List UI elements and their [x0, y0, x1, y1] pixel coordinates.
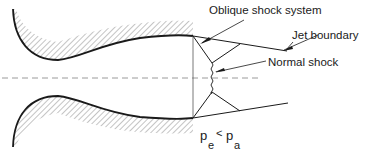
pressure-p-exit: p [200, 128, 207, 143]
normal-shock-label: Normal shock [268, 56, 339, 68]
pressure-p-ambient: p [226, 128, 233, 143]
jet-boundary-arrowhead [283, 46, 293, 51]
jet-boundary-label: Jet boundary [292, 29, 359, 41]
pressure-sub-e: e [208, 139, 214, 151]
normal-shock-arrowhead [215, 68, 225, 72]
nozzle-diagram: Oblique shock system Jet boundary Normal… [0, 0, 365, 152]
oblique-shock-label: Oblique shock system [209, 4, 322, 16]
pressure-less-than: < [216, 127, 222, 139]
pressure-sub-a: a [234, 139, 241, 151]
upper-jet-boundary [193, 36, 287, 51]
lower-jet-boundary [193, 103, 288, 118]
lower-wall-hatch [13, 96, 193, 147]
upper-wall-hatch [13, 9, 193, 60]
